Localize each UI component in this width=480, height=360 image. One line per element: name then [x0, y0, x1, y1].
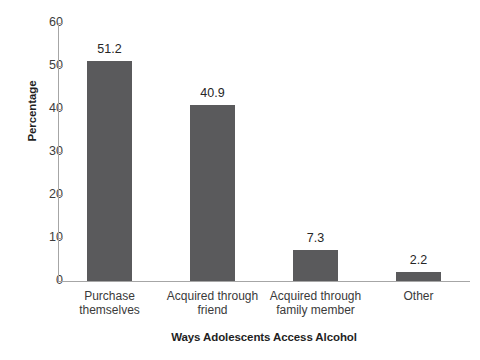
- x-axis-category-label: Acquired throughfamily member: [261, 289, 371, 317]
- x-axis-category-label: Purchasethemselves: [55, 289, 165, 317]
- bar: [190, 105, 235, 281]
- y-axis-tick-label: 30: [17, 145, 63, 158]
- category-label-line: Acquired through: [158, 289, 268, 303]
- plot-area: 51.240.97.32.2: [58, 23, 470, 281]
- x-axis-category-label: Other: [364, 289, 474, 303]
- y-axis-tick-label: 50: [17, 59, 63, 72]
- x-axis-category-label: Acquired throughfriend: [158, 289, 268, 317]
- bar: [396, 272, 441, 281]
- bar-value-label: 7.3: [276, 232, 356, 245]
- y-axis-tick-label: 20: [17, 188, 63, 201]
- x-axis-line: [58, 281, 470, 282]
- y-axis-tick-label: 60: [17, 16, 63, 29]
- category-label-line: Other: [364, 289, 474, 303]
- bar-value-label: 2.2: [379, 254, 459, 267]
- category-label-line: Acquired through: [261, 289, 371, 303]
- y-axis-tick-label: 40: [17, 102, 63, 115]
- category-label-line: friend: [158, 303, 268, 317]
- bar: [87, 61, 132, 281]
- category-label-line: Purchase: [55, 289, 165, 303]
- x-axis-title: Ways Adolescents Access Alcohol: [58, 331, 470, 343]
- bar-value-label: 51.2: [70, 43, 150, 56]
- category-label-line: themselves: [55, 303, 165, 317]
- y-axis-tick-label: 0: [17, 274, 63, 287]
- bar-chart: Percentage 0102030405060 51.240.97.32.2 …: [0, 0, 480, 360]
- category-label-line: family member: [261, 303, 371, 317]
- bar: [293, 250, 338, 281]
- bar-value-label: 40.9: [173, 87, 253, 100]
- y-axis-tick-label: 10: [17, 231, 63, 244]
